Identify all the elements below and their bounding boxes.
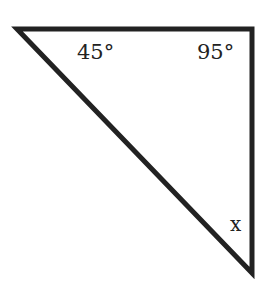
triangle [17,29,252,273]
angle-label-top-right: 95° [197,42,234,63]
angle-label-top-left: 45° [77,42,114,63]
angle-label-bottom: x [230,214,241,234]
